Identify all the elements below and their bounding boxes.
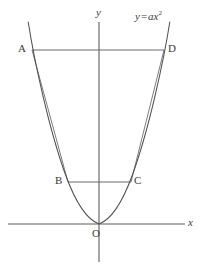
equation-lhs: y — [135, 10, 140, 22]
y-axis-label: y — [96, 7, 101, 18]
point-label-O: O — [92, 228, 100, 239]
point-label-B: B — [55, 175, 62, 186]
x-axis-label: x — [188, 217, 193, 228]
point-label-C: C — [134, 175, 141, 186]
segment-DC — [131, 50, 164, 182]
point-label-D: D — [168, 43, 176, 54]
figure-canvas — [0, 0, 200, 269]
parabola-figure: A D B C O y x y=ax2 — [0, 0, 200, 269]
curve-equation-label: y=ax2 — [135, 10, 162, 22]
equation-equals-sign: = — [141, 10, 147, 22]
point-label-A: A — [18, 43, 26, 54]
equation-exponent: 2 — [159, 9, 163, 17]
